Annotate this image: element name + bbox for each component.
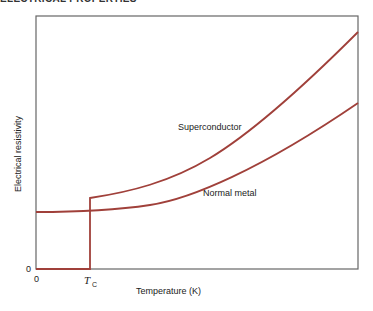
superconductor-curve xyxy=(36,32,358,269)
x-tick-tc: T xyxy=(84,274,91,286)
y-tick-zero: 0 xyxy=(26,264,31,274)
normal-metal-label: Normal metal xyxy=(203,188,257,198)
x-tick-tc-subscript: C xyxy=(92,281,97,288)
y-axis-label: Electrical resistivity xyxy=(13,115,23,192)
resistivity-chart: Superconductor Normal metal Electrical r… xyxy=(0,0,373,311)
plot-frame xyxy=(36,16,358,269)
x-tick-zero: 0 xyxy=(34,274,39,284)
x-axis-label: Temperature (K) xyxy=(136,286,201,296)
superconductor-label: Superconductor xyxy=(178,122,242,132)
normal-metal-curve xyxy=(36,103,358,212)
